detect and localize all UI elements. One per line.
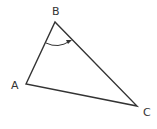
angle-arc-b <box>46 41 70 46</box>
vertex-label-b: B <box>52 5 60 18</box>
vertex-label-c: C <box>143 106 151 119</box>
triangle-abc <box>26 22 137 106</box>
triangle-diagram: B A C <box>0 0 157 129</box>
arrowhead-icon <box>66 40 72 44</box>
vertex-label-a: A <box>11 79 19 92</box>
